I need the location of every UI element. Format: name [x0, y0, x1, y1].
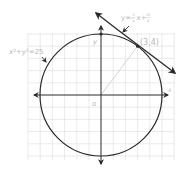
slope-denominator: 4 — [133, 19, 136, 23]
intercept-denominator: 4 — [147, 19, 150, 23]
slope-numerator: 3 — [133, 13, 135, 17]
tangent-line — [96, 13, 118, 30]
y-axis-label: y — [92, 38, 98, 46]
origin-label: o — [92, 100, 96, 108]
x-axis-label: x — [167, 86, 172, 93]
circle-tangent-diagram: y=- 3 4 x+ 25 4 (3,4) x²+y²=25 y x o — [0, 0, 182, 171]
circle-equation-label: x²+y²=25 — [9, 48, 44, 56]
tangent-point — [136, 45, 139, 48]
circle-label-pointer — [42, 57, 46, 62]
tangent-label-pointer — [123, 26, 129, 32]
intercept-numerator: 25 — [146, 13, 150, 17]
point-label: (3,4) — [140, 38, 159, 47]
tangent-line-lower — [118, 30, 175, 73]
y-intercept-point — [99, 32, 102, 35]
